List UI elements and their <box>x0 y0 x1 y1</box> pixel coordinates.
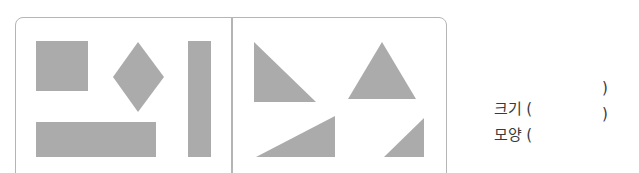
rhombus-shape <box>113 42 164 112</box>
size-answer-close: ) <box>602 79 608 97</box>
long-right-triangle-shape <box>256 116 335 157</box>
horizontal-rectangle-shape <box>36 122 156 157</box>
shape-answer-line: 모양 ( ) <box>484 105 532 162</box>
left-group <box>36 41 211 157</box>
vertical-rectangle-shape <box>188 41 211 157</box>
shape-label: 모양 ( <box>494 126 533 144</box>
shape-answer-close: ) <box>602 105 608 123</box>
square-shape <box>36 41 88 91</box>
right-triangle-shape <box>254 42 316 102</box>
shapes-canvas <box>0 0 639 173</box>
small-right-triangle-shape <box>384 118 424 157</box>
isosceles-triangle-shape <box>348 42 416 99</box>
right-group <box>254 42 424 157</box>
